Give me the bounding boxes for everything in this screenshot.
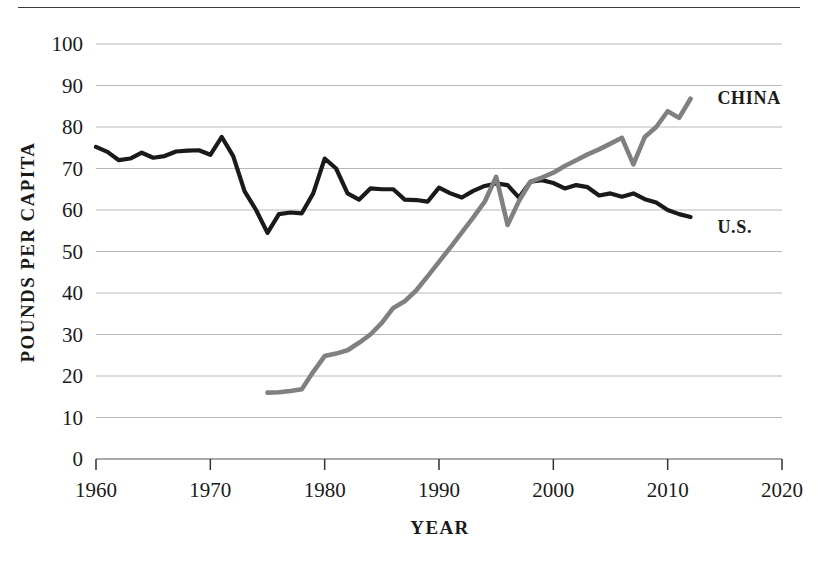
pounds-per-capita-line-chart: 0102030405060708090100196019701980199020… [0, 0, 825, 567]
ytick-label-10: 10 [62, 406, 83, 430]
y-axis-title: POUNDS PER CAPITA [17, 142, 38, 363]
xtick-label-1990: 1990 [418, 478, 460, 502]
ytick-label-30: 30 [62, 323, 83, 347]
xtick-label-1980: 1980 [304, 478, 346, 502]
xtick-label-1970: 1970 [189, 478, 231, 502]
xtick-label-2000: 2000 [532, 478, 574, 502]
ytick-label-90: 90 [62, 74, 83, 98]
xtick-label-2020: 2020 [761, 478, 803, 502]
series-line-us [96, 137, 691, 233]
xtick-label-2010: 2010 [647, 478, 689, 502]
series-label-us: U.S. [717, 217, 752, 237]
series-label-china: CHINA [717, 88, 781, 108]
x-axis-title: YEAR [410, 517, 469, 538]
ytick-label-0: 0 [73, 447, 84, 471]
xtick-label-1960: 1960 [75, 478, 117, 502]
chart-figure: 0102030405060708090100196019701980199020… [0, 0, 825, 567]
ytick-label-80: 80 [62, 115, 83, 139]
series-line-china [268, 99, 691, 393]
ytick-label-40: 40 [62, 281, 83, 305]
ytick-label-20: 20 [62, 364, 83, 388]
ytick-label-70: 70 [62, 157, 83, 181]
ytick-label-60: 60 [62, 198, 83, 222]
ytick-label-100: 100 [52, 32, 84, 56]
ytick-label-50: 50 [62, 240, 83, 264]
